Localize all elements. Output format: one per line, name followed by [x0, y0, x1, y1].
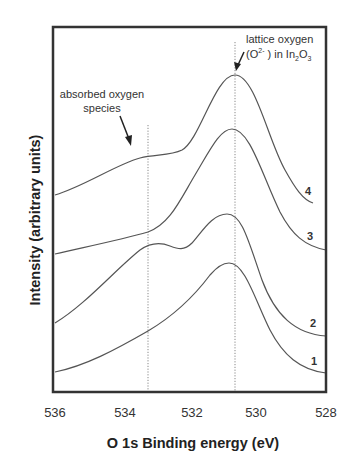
x-tick-528: 528 [315, 405, 337, 420]
absorbed-arrow-head-icon [125, 135, 132, 146]
x-tick-534: 534 [114, 405, 136, 420]
curve-2 [55, 214, 326, 336]
x-tick-530: 530 [245, 405, 267, 420]
lattice-arrow-head-icon [234, 62, 241, 71]
absorbed-arrow-shaft [120, 116, 129, 139]
plot-frame [53, 27, 326, 392]
lattice-annotation-line2: (O2- ) in In2O3 [246, 47, 312, 62]
absorbed-annotation-line1: absorbed oxygen [60, 88, 144, 100]
absorbed-annotation-line2: species [83, 102, 121, 114]
curve-3 [55, 129, 326, 254]
y-axis-title: Intensity (arbitrary units) [27, 134, 43, 305]
x-tick-532: 532 [181, 405, 203, 420]
x-tick-536: 536 [44, 405, 66, 420]
curve-label-3: 3 [307, 230, 313, 242]
curve-label-2: 2 [310, 317, 316, 329]
lattice-annotation-line1: lattice oxygen [246, 33, 313, 45]
xps-chart: 4 3 2 1 absorbed oxygen species lattice … [0, 0, 352, 475]
x-axis-title: O 1s Binding energy (eV) [107, 435, 280, 451]
lattice-arrow-shaft [238, 52, 244, 65]
curve-label-1: 1 [311, 355, 317, 367]
curve-label-4: 4 [305, 185, 312, 197]
